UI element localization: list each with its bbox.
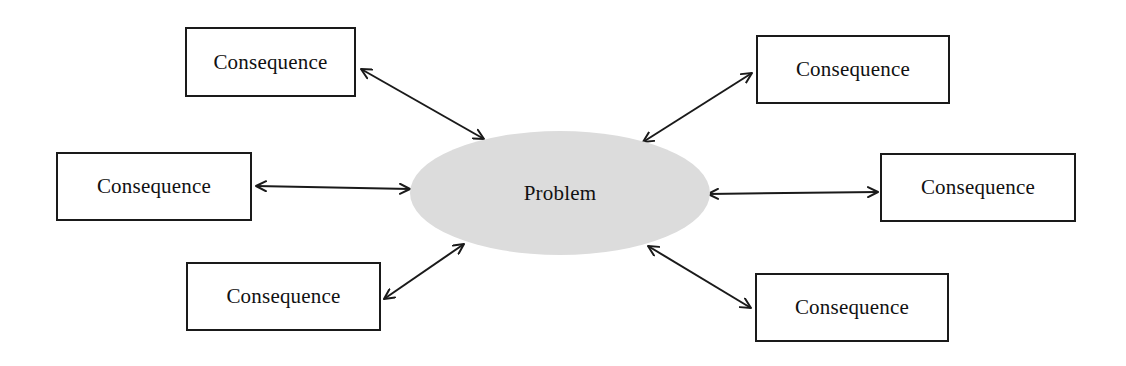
problem-consequence-diagram: Problem Consequence Consequence Conseque… xyxy=(0,0,1126,366)
consequence-label: Consequence xyxy=(795,295,909,320)
consequence-label: Consequence xyxy=(921,175,1035,200)
consequence-top-right-box: Consequence xyxy=(756,35,950,104)
bidirectional-arrow-consequence-middle-left xyxy=(256,186,410,189)
bidirectional-arrow-consequence-bottom-right xyxy=(648,246,751,308)
consequence-bottom-right-box: Consequence xyxy=(755,273,949,342)
consequence-middle-left-box: Consequence xyxy=(56,152,252,221)
bidirectional-arrow-consequence-middle-right xyxy=(708,192,878,194)
bidirectional-arrow-consequence-top-right xyxy=(643,73,752,142)
problem-node: Problem xyxy=(410,131,710,255)
consequence-label: Consequence xyxy=(97,174,211,199)
bidirectional-arrow-consequence-top-left xyxy=(361,69,484,139)
consequence-label: Consequence xyxy=(226,284,340,309)
consequence-label: Consequence xyxy=(796,57,910,82)
consequence-bottom-left-box: Consequence xyxy=(186,262,381,331)
consequence-middle-right-box: Consequence xyxy=(880,153,1076,222)
problem-label: Problem xyxy=(524,181,597,206)
bidirectional-arrow-consequence-bottom-left xyxy=(384,244,464,299)
consequence-top-left-box: Consequence xyxy=(185,27,356,97)
consequence-label: Consequence xyxy=(213,50,327,75)
